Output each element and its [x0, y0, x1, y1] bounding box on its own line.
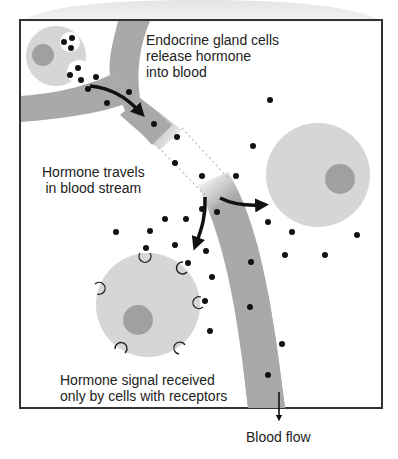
target-cell — [95, 253, 203, 357]
label-received: Hormone signal received only by cells wi… — [60, 372, 227, 404]
label-blood-flow: Blood flow — [246, 429, 311, 445]
label-release: Endocrine gland cells release hormone in… — [146, 32, 279, 80]
header-shade — [22, 0, 380, 22]
non-target-cell — [266, 123, 370, 227]
endocrine-gland-cell — [26, 26, 91, 86]
endocrine-diagram: Endocrine gland cells release hormone in… — [0, 0, 398, 459]
label-travels: Hormone travels in blood stream — [42, 164, 145, 196]
arrow-to-target-cell-icon — [196, 197, 205, 244]
